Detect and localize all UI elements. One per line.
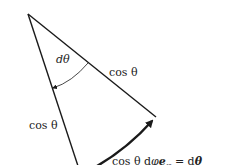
left-edge-label-text: cos θ bbox=[29, 119, 58, 132]
angle-label: dθ bbox=[56, 54, 70, 65]
eq-phi: φ bbox=[151, 155, 159, 165]
eq-prefix: cos θ d bbox=[112, 155, 151, 165]
eq-rhs: θ bbox=[195, 155, 202, 165]
eq-equals: = d bbox=[171, 155, 194, 165]
left-edge-line bbox=[28, 14, 78, 165]
left-edge-label: cos θ bbox=[29, 120, 58, 131]
bottom-equation: cos θ dφeφ = dθ bbox=[112, 156, 202, 165]
eq-vector-e: e bbox=[159, 155, 166, 165]
wedge-diagram bbox=[0, 0, 226, 165]
angle-arc bbox=[53, 63, 88, 88]
right-edge-label-text: cos θ bbox=[109, 66, 138, 79]
right-edge-label: cos θ bbox=[109, 67, 138, 78]
